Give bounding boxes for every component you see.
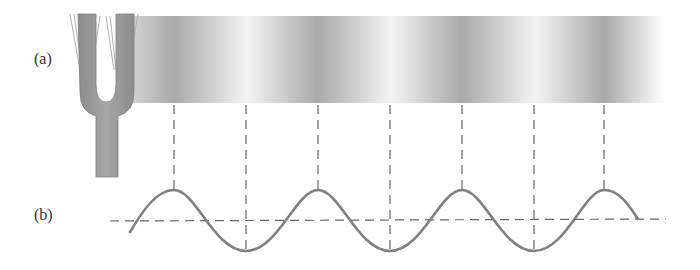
sound-wave-diagram [0,0,700,270]
tuning-fork-icon [70,14,138,177]
vertical-reference-lines [174,105,604,251]
equilibrium-line [110,219,666,221]
pressure-band [130,16,664,103]
